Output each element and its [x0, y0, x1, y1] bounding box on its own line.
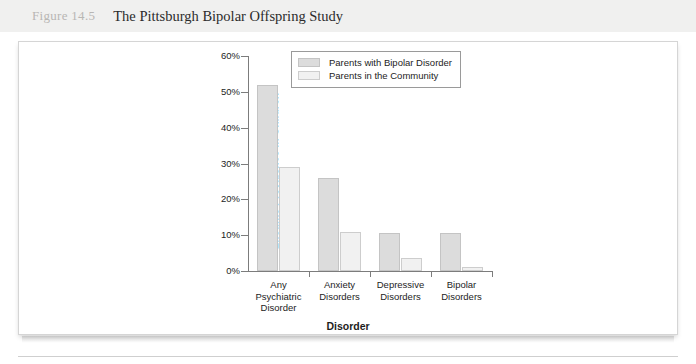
panel-shadow: [22, 336, 674, 343]
figure-panel: [18, 41, 678, 335]
figure-number: Figure 14.5: [32, 8, 95, 24]
figure-title: The Pittsburgh Bipolar Offspring Study: [113, 8, 343, 25]
bottom-divider: [18, 356, 678, 357]
figure-header: Figure 14.5 The Pittsburgh Bipolar Offsp…: [0, 0, 696, 32]
